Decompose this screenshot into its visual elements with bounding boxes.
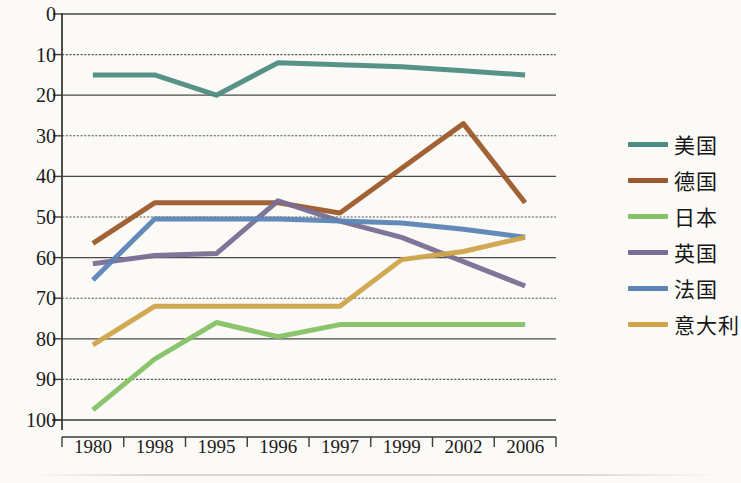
page-edge-artifact [30, 474, 720, 476]
legend-item[interactable]: 法国 [628, 270, 738, 306]
legend-item[interactable]: 日本 [628, 198, 738, 234]
y-axis-tick-labels: 1009080706050403020100 [0, 0, 56, 483]
x-tick-label: 1999 [371, 437, 433, 456]
legend-label: 意大利 [674, 309, 740, 339]
x-tick-label: 1997 [309, 437, 371, 456]
series-line [93, 63, 525, 95]
legend-item[interactable]: 意大利 [628, 306, 738, 342]
x-tick-label: 1980 [62, 437, 124, 456]
legend-item[interactable]: 英国 [628, 234, 738, 270]
y-tick-label: 60 [10, 248, 56, 268]
series-line [93, 323, 525, 410]
y-tick-label: 80 [10, 329, 56, 349]
legend-color-swatch [628, 250, 668, 255]
y-tick-label: 90 [10, 369, 56, 389]
legend-color-swatch [628, 178, 668, 183]
x-tick-label: 2006 [494, 437, 556, 456]
legend-label: 法国 [674, 273, 718, 303]
x-tick-label: 1996 [247, 437, 309, 456]
x-axis-tick-labels: 19801998199519961997199920022006 [62, 437, 556, 471]
legend-color-swatch [628, 322, 668, 327]
legend-color-swatch [628, 286, 668, 291]
legend-label: 美国 [674, 129, 718, 159]
data-series-layer [93, 63, 525, 410]
legend-label: 日本 [674, 201, 718, 231]
y-tick-label: 20 [10, 85, 56, 105]
y-tick-label: 40 [10, 166, 56, 186]
legend-label: 德国 [674, 165, 718, 195]
x-tick-label: 1995 [185, 437, 247, 456]
chart-legend: 美国德国日本英国法国意大利 [628, 126, 738, 342]
legend-color-swatch [628, 214, 668, 219]
legend-item[interactable]: 德国 [628, 162, 738, 198]
line-chart: 1009080706050403020100 19801998199519961… [0, 0, 620, 483]
series-line [93, 124, 525, 244]
chart-page: 1009080706050403020100 19801998199519961… [0, 0, 741, 483]
legend-item[interactable]: 美国 [628, 126, 738, 162]
x-tick-label: 1998 [124, 437, 186, 456]
y-tick-label: 70 [10, 288, 56, 308]
y-tick-label: 50 [10, 207, 56, 227]
x-tick-label: 2002 [432, 437, 494, 456]
legend-label: 英国 [674, 237, 718, 267]
plot-canvas [0, 0, 620, 483]
y-tick-label: 0 [10, 4, 56, 24]
y-tick-label: 10 [10, 45, 56, 65]
legend-color-swatch [628, 142, 668, 147]
y-tick-label: 100 [10, 410, 56, 430]
series-line [93, 201, 525, 286]
y-tick-label: 30 [10, 126, 56, 146]
